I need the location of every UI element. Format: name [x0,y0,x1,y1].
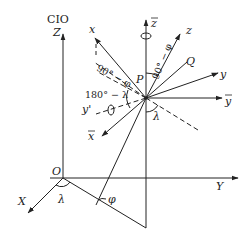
angle-90-minus-phi-left-label: 90° − φ [95,62,134,89]
coordinate-transformation-diagram: CIO Z O X Y λ φ x z y z y x y' P Q 90° −… [0,0,252,240]
z-bar-label: z [150,17,157,30]
x-bar-axis [102,98,146,136]
y-prime-label: y' [81,103,91,116]
Q-direction-line [146,62,187,98]
x-bar-label: x [88,130,95,143]
y-bar-label: y [224,95,232,108]
x-label: x [89,23,96,36]
angle-90-minus-phi-top-label: 90° − φ [150,42,174,81]
P-label: P [135,73,144,86]
meridian-projection-line [63,178,146,228]
Y-label: Y [216,180,225,193]
z-label: z [185,24,192,37]
lambda-center-label: λ [152,110,160,123]
phi-base-label: φ [108,193,116,206]
Z-label: Z [52,26,61,39]
Q-label: Q [186,55,195,68]
station-to-base-line [96,98,146,205]
X-label: X [17,195,27,208]
dashed-y-prime-line [96,98,146,114]
y-prime-rotation-icon [108,105,114,115]
station-point [144,96,148,100]
lambda-base-label: λ [57,193,65,206]
O-label: O [52,165,61,178]
cio-label: CIO [47,13,69,26]
y-label: y [219,68,227,81]
angle-180-minus-lambda-label: 180° − λ [85,89,128,100]
